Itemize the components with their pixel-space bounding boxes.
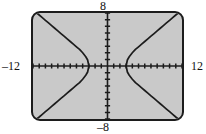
hyperbola-left-lower <box>37 66 89 119</box>
hyperbola-left-upper <box>37 13 89 66</box>
hyperbola-right-upper <box>126 13 178 66</box>
y-max-label: 8 <box>0 0 206 12</box>
x-max-label: 12 <box>191 60 203 72</box>
y-min-label: –8 <box>0 121 206 133</box>
calculator-screen-figure: 8 –8 –12 12 <box>0 0 206 134</box>
x-min-label: –12 <box>2 60 20 72</box>
calculator-screen-bezel <box>31 11 184 121</box>
hyperbola-plot <box>33 13 182 119</box>
hyperbola-right-lower <box>126 66 178 119</box>
